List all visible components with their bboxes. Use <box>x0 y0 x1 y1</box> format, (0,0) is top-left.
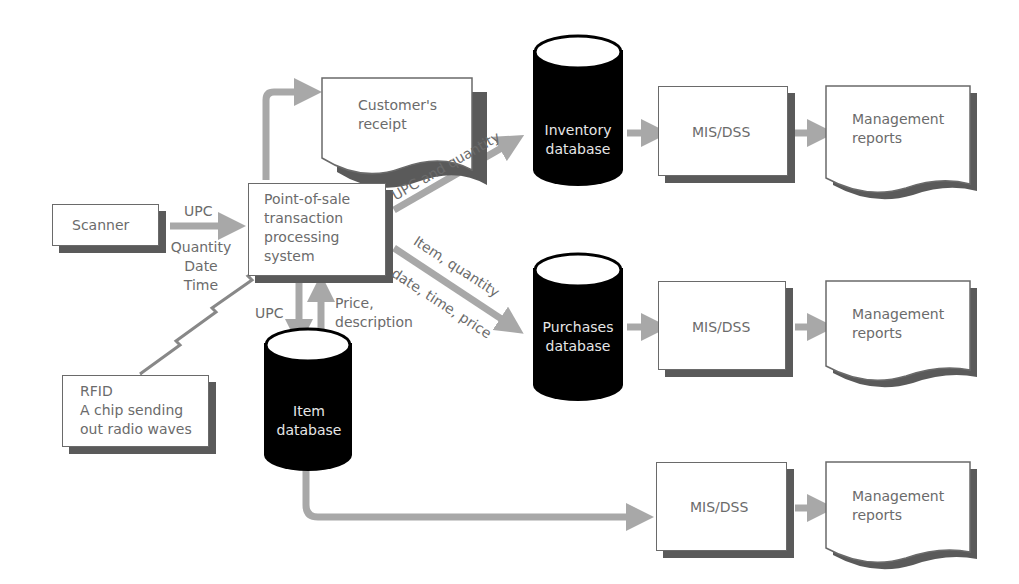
item-db-label: Item database <box>266 402 352 440</box>
inventory-db-cylinder <box>533 36 623 186</box>
reports2-label: Management reports <box>852 305 944 343</box>
edge-label-quantity-date-time: Quantity Date Time <box>170 238 232 295</box>
diagram-canvas: Scanner Point-of-sale transaction proces… <box>0 0 1019 584</box>
pos-system-label: Point-of-sale transaction processing sys… <box>264 190 350 266</box>
reports1-label: Management reports <box>852 110 944 148</box>
edge-label-upc-item: UPC <box>255 304 283 323</box>
reports3-label: Management reports <box>852 487 944 525</box>
item-db-cylinder <box>264 329 352 471</box>
edge-label-upc-scanner: UPC <box>184 202 212 221</box>
arrow-pos-to-receipt <box>266 92 308 180</box>
rfid-label: RFID A chip sending out radio waves <box>80 382 192 439</box>
scanner-label: Scanner <box>72 216 129 235</box>
mis1-label: MIS/DSS <box>692 123 750 142</box>
arrow-item-db-to-mis3 <box>306 470 640 517</box>
receipt-label: Customer's receipt <box>358 96 437 134</box>
purchases-db-label: Purchases database <box>531 318 625 356</box>
inventory-db-label: Inventory database <box>535 121 621 159</box>
mis2-label: MIS/DSS <box>692 318 750 337</box>
mis3-label: MIS/DSS <box>690 498 748 517</box>
edge-label-price-description: Price, description <box>335 294 413 332</box>
